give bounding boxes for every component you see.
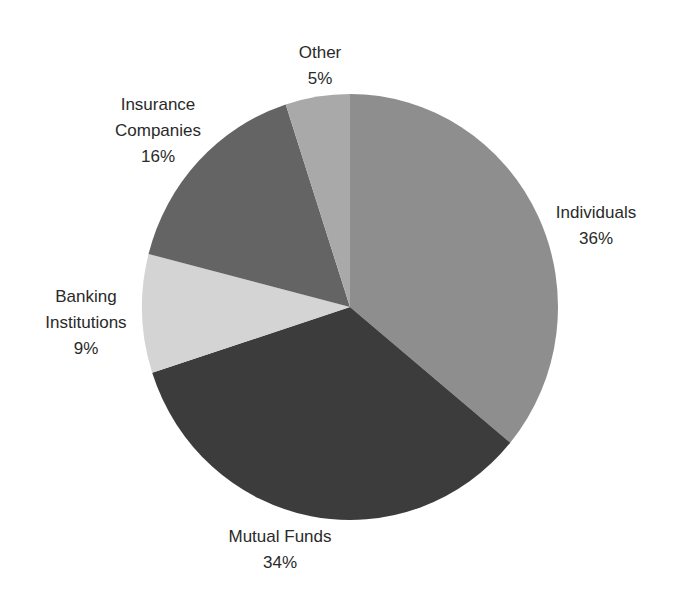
label-other: Other 5%: [290, 40, 350, 92]
label-banking-line1: Banking: [30, 284, 142, 310]
label-insurance: Insurance Companies 16%: [98, 92, 218, 170]
label-insurance-line2: Companies: [98, 118, 218, 144]
label-insurance-pct: 16%: [98, 144, 218, 170]
label-mutual-pct: 34%: [200, 550, 360, 576]
label-other-name: Other: [290, 40, 350, 66]
label-individuals-name: Individuals: [536, 200, 656, 226]
label-banking-pct: 9%: [30, 336, 142, 362]
label-individuals: Individuals 36%: [536, 200, 656, 252]
label-banking: Banking Institutions 9%: [30, 284, 142, 362]
label-other-pct: 5%: [290, 66, 350, 92]
label-banking-line2: Institutions: [30, 310, 142, 336]
label-mutual-name: Mutual Funds: [200, 524, 360, 550]
label-individuals-pct: 36%: [536, 226, 656, 252]
label-insurance-line1: Insurance: [98, 92, 218, 118]
label-mutual-funds: Mutual Funds 34%: [200, 524, 360, 576]
